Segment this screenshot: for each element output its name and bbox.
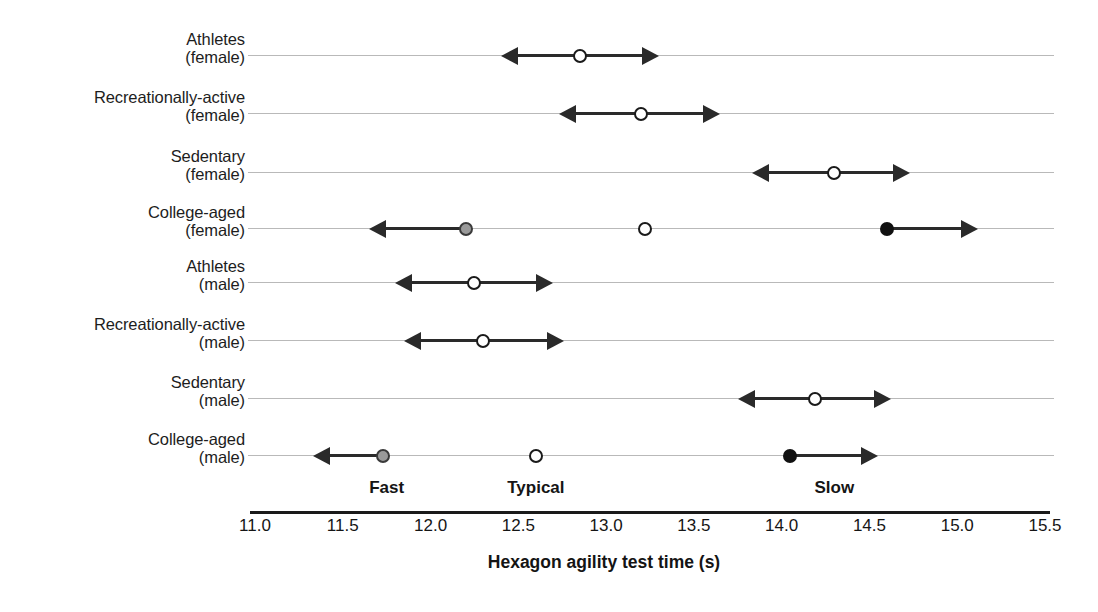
whisker-bar-left: [752, 397, 815, 400]
whisker-bar-right: [790, 454, 864, 457]
whisker-bar-right: [641, 112, 706, 115]
row-gridline: [248, 282, 1054, 283]
data-point-marker-open: [467, 276, 481, 290]
x-tick-label: 12.5: [502, 516, 535, 536]
arrow-right-icon: [642, 47, 659, 65]
whisker-bar-left: [766, 171, 835, 174]
category-label-line2: (female): [185, 48, 245, 66]
category-label-line1: Athletes: [185, 30, 245, 48]
whisker-bar-left: [515, 54, 580, 57]
category-label: Recreationally-active(female): [94, 88, 245, 125]
arrow-left-icon: [369, 220, 386, 238]
arrow-right-icon: [893, 164, 910, 182]
category-label-line1: College-aged: [148, 430, 245, 448]
data-point-marker-filled: [880, 222, 894, 236]
data-point-marker-open: [529, 449, 543, 463]
x-tick-label: 11.0: [239, 516, 271, 536]
data-point-marker-open: [638, 222, 652, 236]
arrow-left-icon: [559, 105, 576, 123]
x-tick-label: 15.0: [941, 516, 974, 536]
data-point-marker-open: [476, 334, 490, 348]
x-tick-label: 13.5: [677, 516, 710, 536]
data-point-marker-open: [808, 392, 822, 406]
row-gridline: [248, 172, 1054, 173]
category-label-line2: (male): [94, 333, 245, 351]
category-label-line1: Recreationally-active: [94, 315, 245, 333]
x-tick-label: 14.0: [765, 516, 798, 536]
arrow-left-icon: [395, 274, 412, 292]
category-label-line1: Athletes: [186, 257, 245, 275]
category-label-line1: Sedentary: [171, 373, 245, 391]
whisker-bar-right: [834, 171, 895, 174]
category-label-line2: (female): [171, 165, 245, 183]
x-tick-label: 12.0: [414, 516, 447, 536]
x-tick-label: 14.5: [853, 516, 886, 536]
zone-annotation-typical: Typical: [507, 478, 564, 498]
data-point-marker-open: [573, 49, 587, 63]
arrow-right-icon: [861, 447, 878, 465]
whisker-bar-left: [573, 112, 642, 115]
whisker-bar-left: [327, 454, 383, 457]
whisker-bar-right: [474, 281, 539, 284]
data-point-marker-open: [827, 166, 841, 180]
zone-annotation-fast: Fast: [369, 478, 404, 498]
x-axis-line: [250, 511, 1050, 514]
category-label-line2: (male): [171, 391, 245, 409]
zone-annotation-slow: Slow: [814, 478, 854, 498]
arrow-left-icon: [404, 332, 421, 350]
x-tick-label: 13.0: [590, 516, 623, 536]
category-label-line2: (female): [94, 106, 245, 124]
category-label: College-aged(female): [148, 203, 245, 240]
whisker-bar-right: [887, 227, 964, 230]
x-tick-label: 15.5: [1028, 516, 1061, 536]
arrow-left-icon: [752, 164, 769, 182]
data-point-marker-gray: [459, 222, 473, 236]
category-label: Recreationally-active(male): [94, 315, 245, 352]
whisker-bar-left: [409, 281, 474, 284]
arrow-left-icon: [313, 447, 330, 465]
category-label-line2: (male): [186, 275, 245, 293]
arrow-right-icon: [547, 332, 564, 350]
data-point-marker-filled: [783, 449, 797, 463]
arrow-left-icon: [738, 390, 755, 408]
data-point-marker-open: [634, 107, 648, 121]
category-label: Athletes(female): [185, 30, 245, 67]
x-axis-title: Hexagon agility test time (s): [0, 552, 1098, 573]
arrow-right-icon: [961, 220, 978, 238]
arrow-right-icon: [703, 105, 720, 123]
category-label: Sedentary(male): [171, 373, 245, 410]
category-label-line2: (female): [148, 221, 245, 239]
whisker-bar-right: [815, 397, 876, 400]
category-label-line2: (male): [148, 448, 245, 466]
category-label: College-aged(male): [148, 430, 245, 467]
hexagon-agility-dot-chart: Athletes(female)Recreationally-active(fe…: [0, 0, 1098, 612]
data-point-marker-gray: [376, 449, 390, 463]
category-label-line1: College-aged: [148, 203, 245, 221]
arrow-right-icon: [874, 390, 891, 408]
category-label-line1: Recreationally-active: [94, 88, 245, 106]
x-tick-label: 11.5: [327, 516, 359, 536]
whisker-bar-left: [418, 339, 483, 342]
row-gridline: [248, 398, 1054, 399]
whisker-bar-right: [580, 54, 645, 57]
plot-area: [248, 0, 1058, 500]
category-label: Athletes(male): [186, 257, 245, 294]
row-gridline: [248, 340, 1054, 341]
arrow-left-icon: [501, 47, 518, 65]
whisker-bar-right: [483, 339, 550, 342]
whisker-bar-left: [383, 227, 466, 230]
category-label-line1: Sedentary: [171, 147, 245, 165]
arrow-right-icon: [536, 274, 553, 292]
category-label: Sedentary(female): [171, 147, 245, 184]
